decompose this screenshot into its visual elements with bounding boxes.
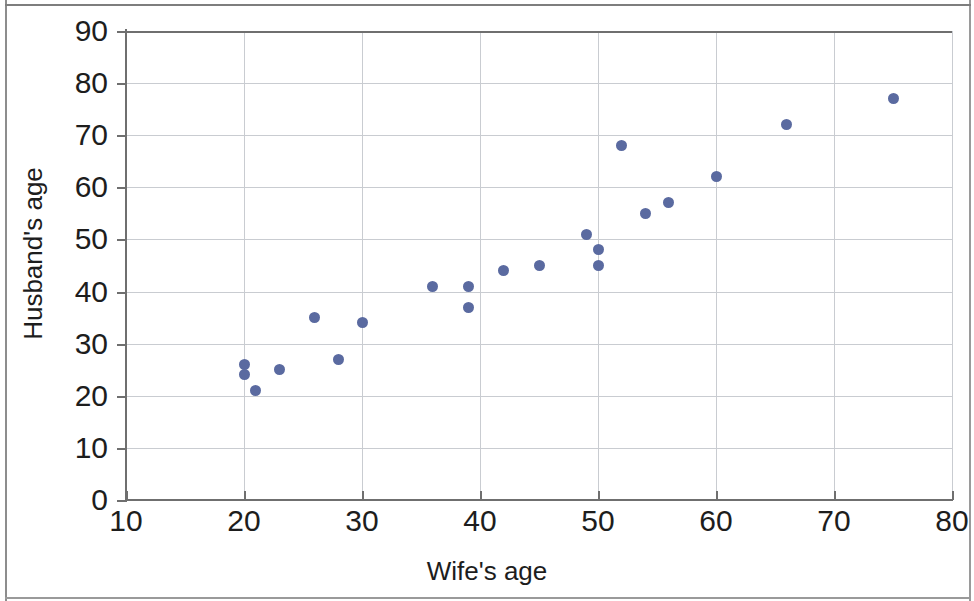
- gridline-vertical: [834, 31, 835, 500]
- gridline-vertical: [362, 31, 363, 500]
- x-tick-label: 40: [435, 506, 525, 536]
- data-point: [239, 369, 250, 380]
- y-tick: [117, 448, 126, 450]
- y-tick-label: 30: [0, 329, 108, 359]
- data-point: [463, 302, 474, 313]
- y-tick: [117, 344, 126, 346]
- data-point: [640, 208, 651, 219]
- data-point: [581, 229, 592, 240]
- x-tick: [362, 491, 364, 500]
- data-point: [274, 364, 285, 375]
- x-tick: [598, 491, 600, 500]
- data-point: [593, 244, 604, 255]
- y-tick: [117, 292, 126, 294]
- x-tick-label: 70: [789, 506, 879, 536]
- gridline-horizontal: [126, 83, 952, 84]
- gridline-vertical: [480, 31, 481, 500]
- gridline-horizontal: [126, 239, 952, 240]
- y-tick-label: 90: [0, 16, 108, 46]
- y-tick-label: 20: [0, 381, 108, 411]
- y-tick-label: 40: [0, 277, 108, 307]
- data-point: [711, 171, 722, 182]
- gridline-horizontal: [126, 187, 952, 188]
- y-tick: [117, 239, 126, 241]
- x-tick: [716, 491, 718, 500]
- y-axis-line: [125, 29, 127, 502]
- x-axis-title: Wife's age: [0, 556, 974, 587]
- y-axis-title: Husband's age: [18, 104, 49, 404]
- x-tick: [244, 491, 246, 500]
- y-tick: [117, 83, 126, 85]
- data-point: [250, 385, 261, 396]
- data-point: [427, 281, 438, 292]
- data-point: [333, 354, 344, 365]
- x-tick-label: 30: [317, 506, 407, 536]
- y-tick-label: 80: [0, 68, 108, 98]
- data-point: [239, 359, 250, 370]
- y-tick-label: 10: [0, 433, 108, 463]
- y-tick-label: 50: [0, 224, 108, 254]
- x-tick: [126, 491, 128, 500]
- data-point: [888, 93, 899, 104]
- y-tick: [117, 187, 126, 189]
- x-tick-label: 80: [907, 506, 974, 536]
- plot-area: [126, 31, 952, 500]
- data-point: [357, 317, 368, 328]
- data-point: [309, 312, 320, 323]
- scanned-page: 0102030405060708090 1020304050607080 Wif…: [0, 0, 974, 601]
- data-point: [616, 140, 627, 151]
- x-tick-label: 20: [199, 506, 289, 536]
- x-tick-label: 60: [671, 506, 761, 536]
- y-tick: [117, 396, 126, 398]
- x-axis-line: [126, 499, 953, 501]
- y-tick: [117, 500, 126, 502]
- data-point: [498, 265, 509, 276]
- gridline-horizontal: [126, 31, 952, 33]
- y-tick: [117, 135, 126, 137]
- gridline-vertical: [716, 31, 717, 500]
- gridline-horizontal: [126, 448, 952, 449]
- scatter-chart: 0102030405060708090 1020304050607080 Wif…: [0, 0, 974, 601]
- data-point: [463, 281, 474, 292]
- data-point: [781, 119, 792, 130]
- y-tick-label: 70: [0, 120, 108, 150]
- gridline-vertical: [952, 31, 953, 500]
- x-tick: [834, 491, 836, 500]
- x-tick-label: 50: [553, 506, 643, 536]
- x-tick: [480, 491, 482, 500]
- y-tick-label: 60: [0, 172, 108, 202]
- gridline-vertical: [244, 31, 245, 500]
- data-point: [534, 260, 545, 271]
- y-tick: [117, 31, 126, 33]
- data-point: [593, 260, 604, 271]
- gridline-horizontal: [126, 135, 952, 136]
- x-tick: [952, 491, 954, 500]
- gridline-horizontal: [126, 344, 952, 345]
- data-point: [663, 197, 674, 208]
- gridline-horizontal: [126, 396, 952, 397]
- x-tick-label: 10: [81, 506, 171, 536]
- gridline-horizontal: [126, 292, 952, 293]
